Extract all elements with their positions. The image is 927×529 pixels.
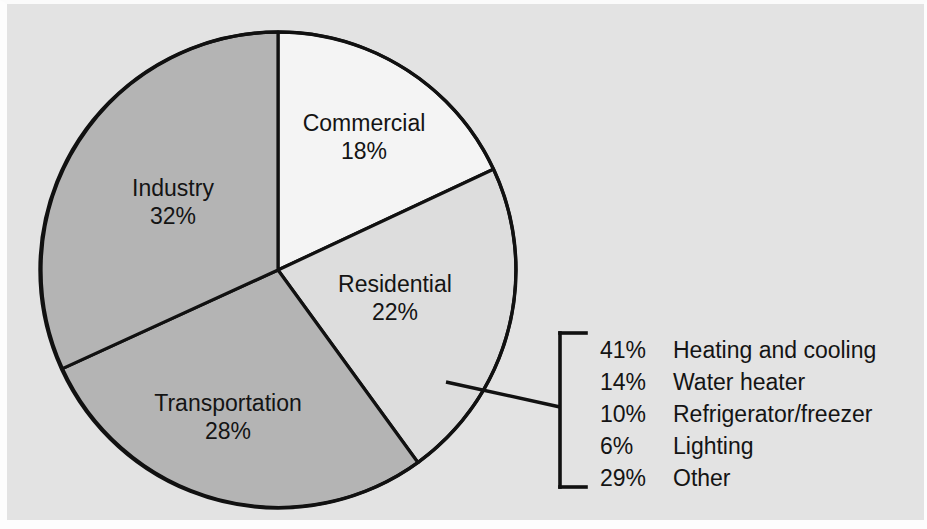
- callout-row-label: Refrigerator/freezer: [673, 401, 873, 427]
- slice-label-commercial-value: 18%: [341, 138, 387, 164]
- callout-row-percent: 41%: [600, 337, 646, 363]
- slice-label-residential-name: Residential: [338, 271, 452, 297]
- callout-row: 14% Water heater: [600, 369, 805, 395]
- callout-row: 41% Heating and cooling: [600, 337, 876, 363]
- callout-row: 6% Lighting: [600, 433, 754, 459]
- callout-row-label: Lighting: [673, 433, 754, 459]
- slice-label-residential-value: 22%: [372, 299, 418, 325]
- pie-chart-svg: Commercial 18% Residential 22% Transport…: [0, 0, 927, 529]
- slice-label-industry-name: Industry: [132, 175, 214, 201]
- slice-label-transportation-value: 28%: [205, 418, 251, 444]
- callout-row-percent: 29%: [600, 465, 646, 491]
- slice-label-commercial-name: Commercial: [303, 110, 426, 136]
- figure-panel: Commercial 18% Residential 22% Transport…: [0, 0, 927, 529]
- callout-row-label: Other: [673, 465, 731, 491]
- pie-slices: [40, 32, 516, 508]
- callout-row-label: Water heater: [673, 369, 805, 395]
- callout-row-label: Heating and cooling: [673, 337, 876, 363]
- callout-row-percent: 6%: [600, 433, 633, 459]
- callout-row: 29% Other: [600, 465, 731, 491]
- slice-label-industry-value: 32%: [150, 203, 196, 229]
- callout-row: 10% Refrigerator/freezer: [600, 401, 873, 427]
- callout-legend: 41% Heating and cooling 14% Water heater…: [600, 337, 876, 491]
- callout-row-percent: 14%: [600, 369, 646, 395]
- callout-row-percent: 10%: [600, 401, 646, 427]
- callout-bracket: [560, 333, 586, 487]
- slice-label-transportation-name: Transportation: [154, 390, 301, 416]
